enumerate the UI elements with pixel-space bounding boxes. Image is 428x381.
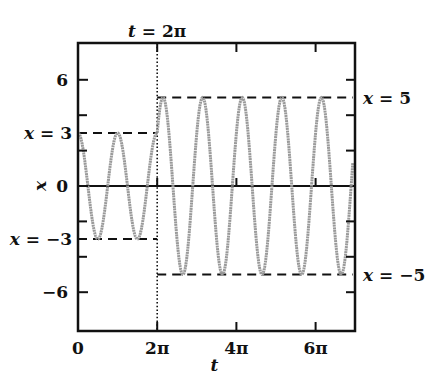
x-tick-label: 2π	[145, 338, 169, 358]
x-tick-label: 4π	[224, 338, 248, 358]
y-axis-label: x	[30, 180, 50, 192]
chart: x = 3x = −3x = 5x = −5t = 2π02π4π6π60−6t…	[0, 0, 428, 381]
reference-lines	[78, 43, 355, 331]
annotation-x-5: x = 5	[362, 88, 411, 108]
x-tick-label: 6π	[303, 338, 327, 358]
annotation-x--3: x = −3	[9, 229, 72, 249]
y-tick-label: 0	[56, 176, 68, 196]
annotation-x--5: x = −5	[362, 265, 425, 285]
y-tick-label: −6	[42, 282, 68, 302]
annotation-t-2pi: t = 2π	[128, 21, 186, 41]
x-tick-label: 0	[72, 338, 84, 358]
y-tick-label: 6	[56, 70, 68, 90]
labels: x = 3x = −3x = 5x = −5t = 2π02π4π6π60−6t…	[9, 21, 426, 375]
x-axis-label: t	[211, 355, 219, 375]
annotation-x-3: x = 3	[23, 123, 72, 143]
